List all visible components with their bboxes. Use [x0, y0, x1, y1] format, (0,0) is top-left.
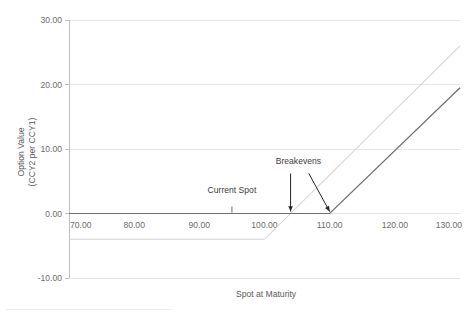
chart-background	[0, 0, 474, 314]
x-tick-label-80: 80.00	[123, 220, 145, 230]
x-tick-label-120: 120.00	[382, 220, 409, 230]
y-tick-label-0: 0.00	[45, 209, 62, 219]
chart-container: -10.000.0010.0020.0030.00 70.0080.0090.0…	[0, 0, 474, 314]
y-tick-label-20: 20.00	[40, 80, 62, 90]
y-tick-label-10: 10.00	[40, 144, 62, 154]
annotation-label-current-spot: Current Spot	[208, 185, 257, 195]
annotation-label-breakevens: Breakevens	[276, 156, 321, 166]
x-tick-label-110: 110.00	[317, 220, 343, 230]
x-axis-title: Spot at Maturity	[236, 289, 297, 299]
y-tick-label--10: -10.00	[38, 273, 63, 283]
x-tick-label-130: 130.00	[436, 220, 463, 230]
y-axis-title-line2: (CCY2 per CCY1)	[27, 117, 37, 186]
x-tick-label-90: 90.00	[189, 220, 211, 230]
x-tick-label-70: 70.00	[70, 220, 92, 230]
x-tick-label-100: 100.00	[251, 220, 278, 230]
option-payoff-chart: -10.000.0010.0020.0030.00 70.0080.0090.0…	[0, 0, 474, 314]
y-axis-title-line1: Option Value	[16, 127, 26, 176]
x-axis-tick-labels: 70.0080.0090.00100.00110.00120.00130.00	[70, 220, 462, 230]
y-tick-label-30: 30.00	[40, 15, 62, 25]
y-axis-title: Option Value (CCY2 per CCY1)	[16, 117, 37, 186]
